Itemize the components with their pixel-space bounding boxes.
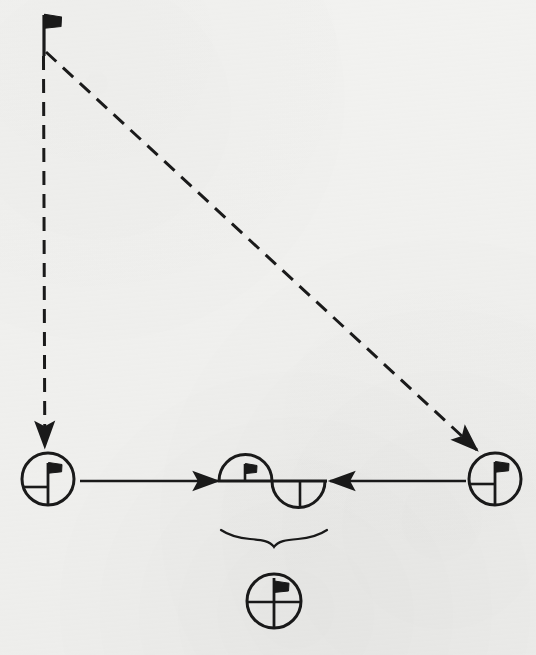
- circled-flag-icon-banner: [49, 463, 63, 474]
- schematic-diagram: [0, 0, 536, 655]
- sine-lobes-flag-icon-banner: [245, 464, 257, 474]
- diagonal-dashed-arrow: [46, 52, 477, 450]
- underbrace: [221, 530, 327, 547]
- right-circle-flag-node: [469, 453, 521, 505]
- bottom-circle-flag-node: [247, 574, 301, 628]
- flag-icon-banner: [45, 14, 62, 28]
- circled-flag-icon-banner: [495, 462, 509, 473]
- top-flag-marker: [44, 14, 62, 56]
- center-sine-flag-node: [218, 455, 327, 508]
- crossed-circled-flag-icon-banner: [274, 581, 289, 592]
- left-circle-flag-node: [22, 453, 74, 505]
- vertical-dashed-arrow: [44, 56, 45, 447]
- diagram-canvas: [0, 0, 536, 655]
- sine-lobes-flag-icon-lower-lobe: [272, 481, 325, 508]
